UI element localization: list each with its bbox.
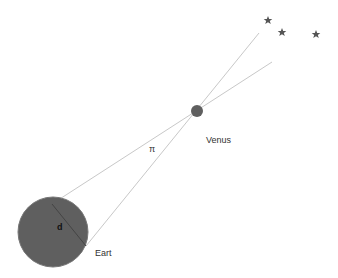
star-icon — [312, 30, 321, 38]
sight-line-2 — [86, 33, 259, 246]
earth-label: Eart — [95, 248, 112, 258]
earth-circle — [18, 197, 88, 267]
sight-line-1 — [52, 62, 272, 204]
parallax-label: π — [149, 144, 155, 154]
venus-label: Venus — [206, 135, 231, 145]
star-icon — [264, 16, 273, 24]
diagram-canvas — [0, 0, 338, 278]
venus-circle — [191, 105, 203, 117]
star-icons — [264, 16, 321, 38]
star-icon — [278, 28, 287, 36]
parallax-diagram: π Venus Eart d — [0, 0, 338, 278]
distance-label: d — [57, 222, 63, 232]
